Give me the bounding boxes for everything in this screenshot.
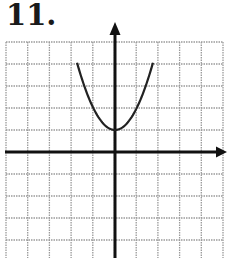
coordinate-graph <box>0 0 227 258</box>
axes <box>5 22 227 258</box>
x-axis-arrow-icon <box>216 147 227 158</box>
y-axis-arrow-icon <box>110 22 121 35</box>
